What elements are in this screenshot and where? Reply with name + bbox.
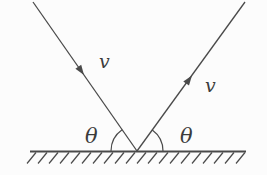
- hatch-stroke: [148, 153, 157, 164]
- hatch-stroke: [60, 153, 69, 164]
- hatch-stroke: [115, 153, 124, 164]
- hatch-stroke: [203, 153, 212, 164]
- incoming-arrowhead-icon: [75, 65, 84, 75]
- outgoing-velocity-label: v: [205, 74, 216, 96]
- incoming-velocity-label: v: [99, 50, 110, 72]
- hatch-stroke: [82, 153, 91, 164]
- hatch-stroke: [181, 153, 190, 164]
- hatch-stroke: [170, 153, 179, 164]
- incidence-angle-label: θ: [85, 124, 98, 148]
- hatch-stroke: [192, 153, 201, 164]
- hatch-stroke: [38, 153, 47, 164]
- reflection-diagram: v v θ θ: [0, 0, 267, 175]
- hatch-stroke: [137, 153, 146, 164]
- hatch-stroke: [159, 153, 168, 164]
- hatch-stroke: [104, 153, 113, 164]
- hatch-stroke: [27, 153, 36, 164]
- reflection-angle-label: θ: [180, 124, 193, 148]
- hatch-stroke: [236, 153, 245, 164]
- ground-hatching: [27, 153, 245, 164]
- reflection-diagram-canvas: v v θ θ: [0, 0, 267, 175]
- right-angle-arc: [152, 130, 163, 151]
- hatch-stroke: [49, 153, 58, 164]
- hatch-stroke: [126, 153, 135, 164]
- hatch-stroke: [71, 153, 80, 164]
- hatch-stroke: [225, 153, 234, 164]
- hatch-stroke: [93, 153, 102, 164]
- outgoing-arrowhead-icon: [183, 76, 192, 86]
- hatch-stroke: [214, 153, 223, 164]
- left-angle-arc: [111, 130, 122, 151]
